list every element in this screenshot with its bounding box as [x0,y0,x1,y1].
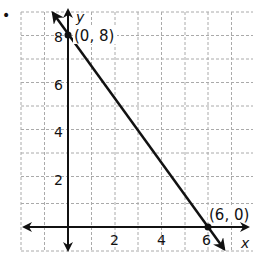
y-tick-4: 4 [54,124,63,140]
y-tick-2: 2 [54,172,63,188]
coordinate-graph: • y x 2 4 6 2 4 6 8 (0, 8) (6, [0,0,253,256]
x-tick-4: 4 [157,232,166,248]
y-tick-8: 8 [54,29,63,45]
y-axis-label: y [75,9,85,25]
point-6-0 [205,224,212,231]
y-tick-6: 6 [54,77,63,93]
x-tick-2: 2 [110,232,119,248]
x-tick-6: 6 [202,232,211,248]
point-label-6-0: (6, 0) [209,206,249,224]
bullet: • [2,7,10,23]
point-label-0-8: (0, 8) [74,27,114,45]
x-axis-label: x [240,235,250,251]
point-0-8 [65,32,72,39]
